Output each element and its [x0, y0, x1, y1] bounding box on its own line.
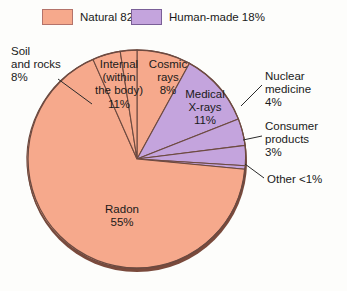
chart-canvas: Natural 82% Human-made 18%: [0, 0, 347, 291]
callout-label-other: Other <1%: [267, 173, 322, 186]
leader-line-consumer: [243, 136, 262, 140]
callout-label-soil-and-rocks: Soil and rocks 8%: [11, 45, 61, 85]
slice-label-radon: Radon 55%: [83, 203, 161, 229]
slice-label-medical-xrays: Medical X-rays 11%: [174, 88, 236, 128]
leader-line-other: [245, 164, 264, 178]
callout-label-nuclear-medicine: Nuclear medicine 4%: [265, 70, 311, 110]
callout-label-consumer-products: Consumer products 3%: [265, 120, 318, 160]
leader-line-nuclear: [241, 85, 262, 106]
